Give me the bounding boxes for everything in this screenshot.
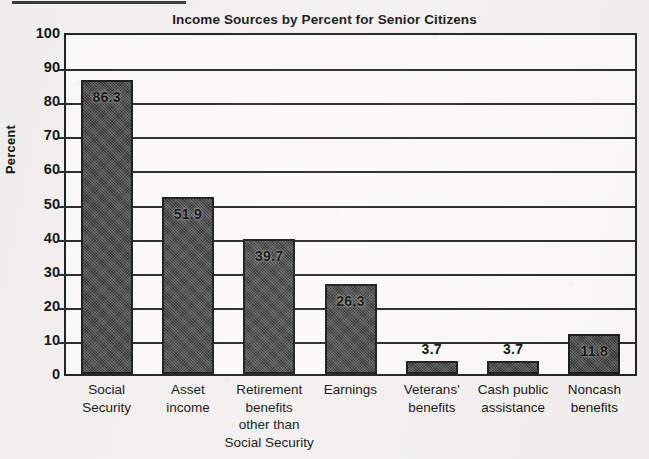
bar-value-label: 39.7 [245,248,293,264]
bar: 39.7 [243,239,295,374]
bar: 26.3 [325,284,377,374]
bar: 51.9 [162,197,214,374]
gridline [66,69,635,71]
y-axis-tick-mark [59,342,66,344]
y-axis-tick-label: 30 [14,264,60,280]
x-axis-category-label: Noncashbenefits [544,381,645,416]
bar-value-label: 51.9 [164,206,212,222]
gridline [66,274,635,276]
x-axis-label-line: Noncash [544,381,645,399]
x-axis-label-line: other than [219,416,320,434]
bar-value-label: 11.8 [570,343,618,359]
bar: 86.3 [81,80,133,374]
gridline [66,206,635,208]
gridline [66,103,635,105]
y-axis-tick-label: 20 [14,298,60,314]
y-axis-tick-label: 40 [14,230,60,246]
x-axis-label-line: benefits [544,399,645,417]
y-axis-tick-label: 0 [14,366,60,382]
y-axis-tick-mark [59,103,66,105]
y-axis-tick-label: 50 [14,196,60,212]
y-axis-tick-label: 80 [14,93,60,109]
y-axis-tick-mark [59,308,66,310]
y-axis-tick-mark [59,274,66,276]
bar: 3.7 [487,361,539,374]
chart-title: Income Sources by Percent for Senior Cit… [0,12,649,27]
plot-area: 86.351.939.726.33.73.711.8 [64,33,637,376]
y-axis-tick-label: 100 [14,25,60,41]
y-axis-tick-mark [59,206,66,208]
y-axis-tick-label: 90 [14,59,60,75]
gridline [66,240,635,242]
bar: 11.8 [568,334,620,374]
y-axis-tick-mark [59,171,66,173]
y-axis-tick-mark [59,240,66,242]
x-axis-label-line: benefits [219,399,320,417]
y-axis-tick-label: 70 [14,127,60,143]
y-axis-tick-mark [59,69,66,71]
page-top-rule [12,1,186,4]
gridline [66,137,635,139]
gridline [66,171,635,173]
y-axis-tick-label: 60 [14,161,60,177]
y-axis-tick-mark [59,137,66,139]
bar-value-label: 3.7 [489,341,537,357]
bar: 3.7 [406,361,458,374]
bar-value-label: 26.3 [327,293,375,309]
bar-value-label: 3.7 [408,341,456,357]
y-axis-tick-label: 10 [14,332,60,348]
bar-value-label: 86.3 [83,89,131,105]
x-axis-label-line: Social Security [219,434,320,452]
